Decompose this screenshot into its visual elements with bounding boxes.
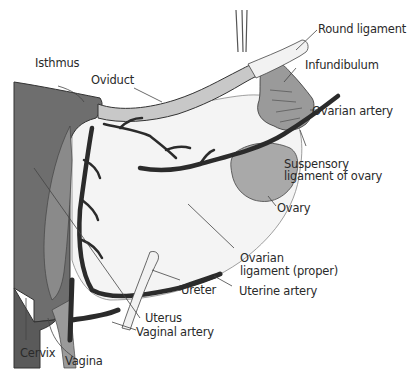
label-isthmus: Isthmus [35, 56, 79, 70]
reproductive-anatomy-diagram: Round ligament Infundibulum Isthmus Ovid… [0, 0, 415, 385]
label-ovarian-ligament-line1: Ovarian [240, 251, 284, 265]
label-cervix: Cervix [20, 346, 56, 360]
label-vagina: Vagina [65, 354, 103, 368]
label-uterine-artery: Uterine artery [239, 284, 317, 298]
label-uterus: Uterus [145, 311, 182, 325]
label-ovary: Ovary [277, 201, 311, 215]
label-ovarian-artery: Ovarian artery [312, 104, 393, 118]
leader-uterine-artery [214, 276, 232, 286]
label-suspensory-line2: ligament of ovary [284, 169, 383, 183]
label-round-ligament: Round ligament [318, 22, 407, 36]
label-oviduct: Oviduct [91, 73, 135, 87]
forceps [236, 10, 247, 52]
leader-oviduct [134, 88, 162, 102]
label-ovarian-ligament-line2: ligament (proper) [240, 264, 338, 278]
label-ureter: Ureter [181, 283, 217, 297]
label-vaginal-artery: Vaginal artery [136, 325, 214, 339]
label-infundibulum: Infundibulum [305, 58, 379, 72]
